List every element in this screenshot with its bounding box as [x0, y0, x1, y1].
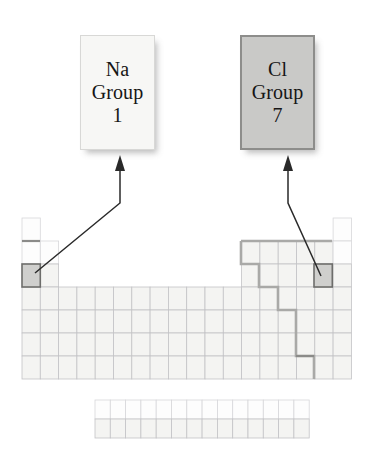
table-cell	[260, 287, 278, 310]
table-cell	[333, 287, 351, 310]
inner-transition-cell	[248, 419, 263, 438]
table-cell	[22, 241, 40, 264]
table-cell	[205, 356, 223, 379]
table-cell	[168, 287, 186, 310]
table-cell	[59, 356, 77, 379]
inner-transition-cell	[217, 419, 232, 438]
table-cell	[77, 287, 95, 310]
table-cell	[40, 333, 58, 356]
inner-transition-cell	[294, 419, 309, 438]
inner-transition-cell	[141, 419, 156, 438]
table-cell	[242, 241, 260, 264]
inner-transition-cell	[279, 419, 294, 438]
callout-cl-symbol: Cl	[268, 58, 287, 81]
table-cell	[333, 241, 351, 264]
inner-transition-cell	[202, 400, 217, 419]
table-cell	[278, 287, 296, 310]
table-cell	[95, 356, 113, 379]
table-cell	[242, 310, 260, 333]
inner-transition-cell	[248, 400, 263, 419]
table-cell	[333, 310, 351, 333]
table-cell	[297, 333, 315, 356]
callout-box-na: Na Group 1	[80, 35, 155, 150]
table-cell	[333, 218, 351, 241]
table-cell	[22, 218, 40, 241]
table-cell	[168, 356, 186, 379]
inner-transition-cell	[172, 419, 187, 438]
sodium-cell	[22, 264, 40, 287]
inner-transition-cell	[110, 419, 125, 438]
callout-na-group-word: Group	[92, 81, 144, 104]
callout-na-group-number: 1	[112, 104, 122, 127]
table-cell	[95, 333, 113, 356]
table-cell	[260, 264, 278, 287]
table-cell	[187, 356, 205, 379]
table-cell	[150, 310, 168, 333]
inner-transition-cell	[217, 400, 232, 419]
callout-box-cl: Cl Group 7	[240, 35, 315, 150]
table-cell	[278, 333, 296, 356]
table-cell	[95, 310, 113, 333]
table-cell	[223, 310, 241, 333]
inner-transition-cell	[95, 419, 110, 438]
table-cell	[223, 333, 241, 356]
table-cell	[150, 333, 168, 356]
table-cell	[223, 287, 241, 310]
table-cell	[132, 333, 150, 356]
table-cell	[297, 356, 315, 379]
table-cell	[278, 241, 296, 264]
table-cell	[205, 287, 223, 310]
table-cell	[114, 356, 132, 379]
table-cell	[223, 356, 241, 379]
table-cell	[260, 310, 278, 333]
table-cell	[333, 333, 351, 356]
callout-cl-group-number: 7	[272, 104, 282, 127]
inner-transition-cell	[141, 400, 156, 419]
table-cell	[150, 287, 168, 310]
table-cell	[297, 264, 315, 287]
table-cell	[315, 333, 333, 356]
callout-na-symbol: Na	[106, 58, 130, 81]
table-cell	[59, 310, 77, 333]
table-cell	[77, 333, 95, 356]
table-cell	[242, 333, 260, 356]
table-cell	[297, 287, 315, 310]
table-cell	[59, 287, 77, 310]
inner-transition-cell	[172, 400, 187, 419]
table-cell	[22, 287, 40, 310]
inner-transition-cell	[233, 419, 248, 438]
inner-transition-cell	[263, 419, 278, 438]
table-cell	[242, 356, 260, 379]
inner-transition-cell	[187, 400, 202, 419]
inner-transition-cell	[263, 400, 278, 419]
table-cell	[205, 333, 223, 356]
periodic-table-artwork	[0, 0, 371, 450]
inner-transition-grid	[95, 400, 309, 438]
inner-transition-cell	[294, 400, 309, 419]
table-cell	[333, 356, 351, 379]
table-cell	[114, 310, 132, 333]
table-cell	[168, 310, 186, 333]
table-cell	[132, 310, 150, 333]
inner-transition-cell	[156, 419, 171, 438]
table-cell	[242, 264, 260, 287]
inner-transition-cell	[126, 419, 141, 438]
table-cell	[40, 264, 58, 287]
inner-transition-cell	[279, 400, 294, 419]
inner-transition-cell	[126, 400, 141, 419]
table-cell	[260, 241, 278, 264]
table-cell	[187, 287, 205, 310]
table-cell	[187, 310, 205, 333]
inner-transition-cell	[95, 400, 110, 419]
table-cell	[315, 356, 333, 379]
table-cell	[59, 333, 77, 356]
table-cell	[297, 310, 315, 333]
inner-transition-cell	[110, 400, 125, 419]
table-cell	[187, 333, 205, 356]
table-cell	[333, 264, 351, 287]
table-cell	[315, 241, 333, 264]
table-cell	[22, 356, 40, 379]
table-cell	[22, 310, 40, 333]
table-cell	[260, 356, 278, 379]
inner-transition-cell	[233, 400, 248, 419]
